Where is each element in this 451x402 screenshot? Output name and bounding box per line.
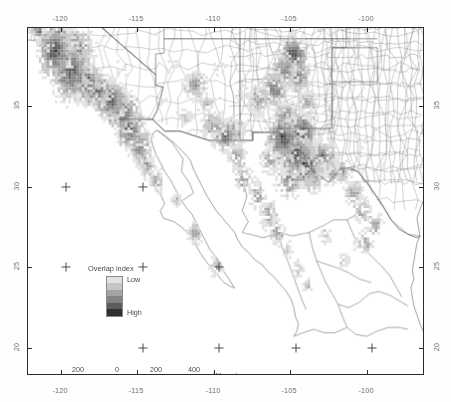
legend-title: Overlap index bbox=[88, 264, 183, 273]
axis-label-y-left-3: 20 bbox=[12, 343, 21, 351]
graticule-cross-icon bbox=[215, 263, 224, 272]
map-scalebar: 200 0 200 400 Kilometers bbox=[76, 365, 251, 375]
legend-body: Low High bbox=[75, 276, 183, 320]
map-figure: -120 -115 -110 -105 -100 -120 -115 -110 … bbox=[0, 0, 451, 402]
axis-label-x-top-1: -115 bbox=[129, 14, 144, 23]
map-frame[interactable]: Overlap index Low High 200 0 200 400 Kil… bbox=[27, 27, 424, 375]
scalebar-tick-2: 200 bbox=[150, 365, 162, 374]
legend-label-low: Low bbox=[127, 275, 140, 284]
tick-x-top-1 bbox=[137, 28, 138, 32]
tick-x-top-3 bbox=[290, 28, 291, 32]
axis-label-y-right-2: 25 bbox=[432, 262, 441, 270]
tick-y-left-0 bbox=[28, 106, 32, 107]
tick-y-right-0 bbox=[419, 106, 423, 107]
tick-x-top-0 bbox=[61, 28, 62, 32]
figure-caption bbox=[22, 393, 432, 401]
axis-label-y-left-2: 25 bbox=[12, 262, 21, 270]
scalebar-tick-1: 0 bbox=[115, 365, 119, 374]
graticule-cross-icon bbox=[292, 344, 301, 353]
tick-x-bottom-3 bbox=[290, 370, 291, 374]
axis-label-x-top-0: -120 bbox=[52, 14, 67, 23]
graticule-cross-icon bbox=[139, 183, 148, 192]
axis-label-x-top-2: -110 bbox=[206, 14, 221, 23]
scalebar-tick-3: 400 bbox=[188, 365, 200, 374]
axis-label-y-left-1: 30 bbox=[12, 182, 21, 190]
tick-y-right-3 bbox=[419, 348, 423, 349]
graticule-cross-icon bbox=[139, 344, 148, 353]
scalebar-tick-0: 200 bbox=[72, 365, 84, 374]
tick-x-bottom-0 bbox=[61, 370, 62, 374]
tick-y-right-1 bbox=[419, 187, 423, 188]
legend-color-ramp bbox=[106, 276, 123, 317]
tick-x-top-2 bbox=[214, 28, 215, 32]
tick-x-bottom-4 bbox=[367, 370, 368, 374]
graticule-cross-icon bbox=[215, 344, 224, 353]
graticule-cross-icon bbox=[62, 183, 71, 192]
axis-label-y-right-3: 20 bbox=[432, 343, 441, 351]
graticule-cross-icon bbox=[368, 344, 377, 353]
legend-swatch-6 bbox=[107, 309, 122, 315]
tick-y-left-1 bbox=[28, 187, 32, 188]
tick-y-left-3 bbox=[28, 348, 32, 349]
axis-label-y-right-0: 35 bbox=[432, 101, 441, 109]
tick-y-left-2 bbox=[28, 267, 32, 268]
axis-label-y-right-1: 30 bbox=[432, 182, 441, 190]
axis-label-x-top-4: -100 bbox=[358, 14, 373, 23]
axis-label-x-top-3: -105 bbox=[281, 14, 296, 23]
graticule-cross-icon bbox=[62, 263, 71, 272]
scalebar-units-label: Kilometers bbox=[213, 371, 248, 375]
tick-x-top-4 bbox=[367, 28, 368, 32]
axis-label-y-left-0: 35 bbox=[12, 101, 21, 109]
tick-y-right-2 bbox=[419, 267, 423, 268]
map-legend: Overlap index Low High bbox=[75, 264, 183, 320]
legend-label-high: High bbox=[127, 308, 142, 317]
map-plot-area[interactable] bbox=[28, 28, 423, 374]
